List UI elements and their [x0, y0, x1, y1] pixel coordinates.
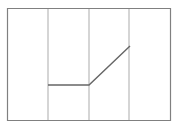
chart-figure: [0, 0, 179, 129]
chart-canvas: [0, 0, 179, 129]
